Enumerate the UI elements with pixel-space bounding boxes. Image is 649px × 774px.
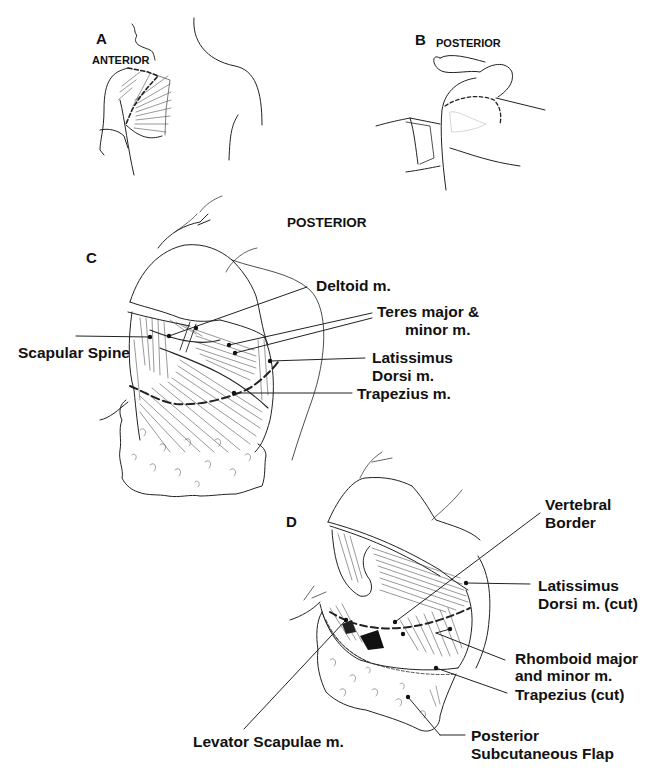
label-latissimus-cut-line1: Latissimus: [538, 577, 619, 595]
panel-d-drawing: [244, 452, 540, 735]
panel-a-drawing: [100, 18, 262, 175]
label-flap-line2: Subcutaneous Flap: [471, 745, 614, 763]
panel-b-drawing: [376, 55, 545, 190]
label-teres-line1: Teres major &: [377, 303, 479, 321]
panel-b-view-label: POSTERIOR: [436, 34, 501, 52]
anatomical-figure: A ANTERIOR B POSTERIOR POSTERIOR C D Del…: [0, 0, 649, 774]
label-trapezius: Trapezius m.: [357, 385, 451, 403]
panel-d-letter: D: [286, 513, 297, 530]
label-deltoid: Deltoid m.: [316, 277, 391, 295]
label-rhomboid-line1: Rhomboid major: [515, 650, 638, 668]
label-trapezius-cut: Trapezius (cut): [515, 686, 624, 704]
panel-b-letter: B: [415, 31, 426, 48]
label-vertebral-line2: Border: [545, 514, 596, 532]
panel-a-letter: A: [96, 30, 107, 47]
label-levator-scapulae: Levator Scapulae m.: [193, 733, 344, 751]
label-latissimus-cut-line2: Dorsi m. (cut): [538, 595, 638, 613]
panel-a-view-label: ANTERIOR: [92, 51, 149, 69]
panel-c-letter: C: [86, 249, 97, 266]
label-flap-line1: Posterior: [471, 727, 539, 745]
panel-c-view-label: POSTERIOR: [287, 214, 367, 232]
label-rhomboid-line2: and minor m.: [515, 667, 612, 685]
label-latissimus-line2: Dorsi m.: [372, 367, 434, 385]
label-vertebral-line1: Vertebral: [545, 496, 611, 514]
label-scapular-spine: Scapular Spine: [18, 344, 130, 362]
label-latissimus-line1: Latissimus: [372, 349, 453, 367]
label-teres-line2: minor m.: [405, 321, 470, 339]
